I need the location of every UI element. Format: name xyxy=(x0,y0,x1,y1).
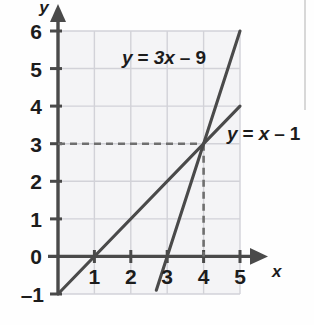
x-tick-label-4: 4 xyxy=(198,265,210,288)
y-tick-label-6: 6 xyxy=(30,20,42,43)
steep-label-expr: 3x xyxy=(154,47,177,68)
steep-label-equals: = xyxy=(138,47,149,68)
y-tick-label-neg1: –1 xyxy=(21,283,45,306)
y-axis-name: y xyxy=(38,0,50,17)
shallow-label-expr: x xyxy=(258,123,271,144)
shallow-label-equals: = xyxy=(243,123,254,144)
y-tick-label-2: 2 xyxy=(30,170,42,193)
figure-root: 6 5 4 3 2 1 0 –1 1 2 3 4 5 y x y=3x–9 xyxy=(0,0,314,325)
shallow-label-y: y xyxy=(226,123,239,144)
y-tick-label-4: 4 xyxy=(30,95,42,118)
x-tick-label-3: 3 xyxy=(161,265,173,288)
x-axis-arrowhead xyxy=(250,248,268,265)
y-tick-labels: 6 5 4 3 2 1 0 –1 xyxy=(21,20,45,306)
y-tick-label-0: 0 xyxy=(30,245,42,268)
steep-label-constant: 9 xyxy=(195,47,206,68)
shallow-label-constant: 1 xyxy=(290,123,301,144)
x-tick-label-2: 2 xyxy=(125,265,137,288)
label-shallow-line: y=x–1 xyxy=(226,123,301,144)
y-tick-label-5: 5 xyxy=(30,58,42,81)
y-tick-label-1: 1 xyxy=(30,208,42,231)
x-tick-label-1: 1 xyxy=(89,265,101,288)
y-axis-arrowhead xyxy=(50,4,66,22)
page-edge-artifact xyxy=(304,0,306,110)
steep-label-minus: – xyxy=(180,47,191,68)
x-axis-name: x xyxy=(271,262,283,281)
steep-label-y: y xyxy=(121,47,134,68)
chart-canvas: 6 5 4 3 2 1 0 –1 1 2 3 4 5 y x y=3x–9 xyxy=(0,0,314,325)
shallow-label-minus: – xyxy=(274,123,285,144)
svg-text:y=x–1: y=x–1 xyxy=(226,123,301,144)
y-tick-label-3: 3 xyxy=(30,133,42,156)
plot-background xyxy=(58,31,240,294)
x-tick-label-5: 5 xyxy=(234,265,246,288)
